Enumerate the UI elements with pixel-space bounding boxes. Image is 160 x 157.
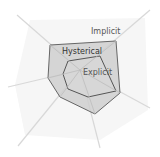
- label-hysterical: Hysterical: [62, 47, 102, 56]
- radar-chart: Implicit Hysterical Explicit: [0, 0, 160, 157]
- label-implicit: Implicit: [91, 27, 120, 36]
- label-explicit: Explicit: [83, 68, 112, 77]
